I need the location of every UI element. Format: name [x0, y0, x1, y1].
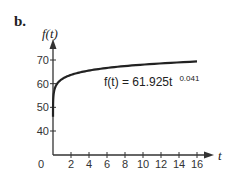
y-tick-label: 40	[37, 125, 49, 137]
origin-label: 0	[38, 158, 44, 170]
x-tick-label: 10	[137, 158, 149, 170]
formula-main: f(t) = 61.925t	[104, 75, 173, 89]
y-tick-label: 50	[37, 101, 49, 113]
formula-exponent: 0.041	[179, 74, 200, 83]
chart: 24681012141640506070 f(t) t 0 f(t) = 61.…	[0, 0, 232, 179]
x-axis-title: t	[218, 148, 222, 163]
x-tick-label: 6	[104, 158, 110, 170]
x-axis-arrow	[204, 152, 214, 159]
x-tick-label: 14	[173, 158, 185, 170]
y-tick-label: 60	[37, 78, 49, 90]
x-tick-label: 4	[86, 158, 92, 170]
axes	[50, 39, 215, 159]
x-tick-label: 16	[191, 158, 203, 170]
ticks: 24681012141640506070	[37, 54, 203, 170]
formula-annotation: f(t) = 61.925t 0.041	[104, 72, 200, 89]
series-line-f-t	[53, 61, 197, 116]
x-tick-label: 12	[155, 158, 167, 170]
x-tick-label: 2	[68, 158, 74, 170]
x-tick-label: 8	[122, 158, 128, 170]
y-tick-label: 70	[37, 54, 49, 66]
y-axis-title: f(t)	[42, 26, 58, 41]
